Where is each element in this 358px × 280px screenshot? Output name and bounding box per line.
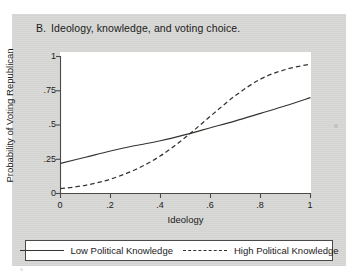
legend-solid-line-icon [20, 250, 64, 251]
series-line-low-political-knowledge [61, 98, 311, 164]
x-axis-title: Ideology [60, 214, 311, 225]
legend-label-low: Low Political Knowledge [71, 245, 173, 256]
legend-item-low-political-knowledge: Low Political Knowledge [20, 245, 173, 256]
legend-label-high: High Political Knowledge [234, 245, 339, 256]
legend-item-high-political-knowledge: High Political Knowledge [183, 245, 339, 256]
x-tick-label-06: .6 [198, 200, 222, 210]
y-tick-label-0: 0 [26, 188, 56, 198]
x-tick-label-1: 1 [298, 200, 322, 210]
y-tick-label-025: .25 [26, 154, 56, 164]
y-tick-label-05: .5 [26, 119, 56, 129]
figure-container: B.Ideology, knowledge, and voting choice… [0, 0, 358, 280]
x-tick-label-02: .2 [98, 200, 122, 210]
y-tick-label-1: 1 [26, 51, 56, 61]
x-tick-label-08: .8 [248, 200, 272, 210]
chart-svg [0, 0, 358, 280]
x-tick-marks [61, 194, 311, 198]
y-tick-label-075: .75 [26, 85, 56, 95]
chart-legend: Low Political Knowledge High Political K… [25, 240, 333, 261]
series-line-high-political-knowledge [61, 64, 311, 189]
legend-dashed-line-icon [183, 250, 227, 251]
x-tick-label-0: 0 [48, 200, 72, 210]
y-tick-marks [56, 57, 60, 194]
y-axis-title: Probability of Voting Republican [4, 31, 15, 201]
x-tick-label-04: .4 [148, 200, 172, 210]
